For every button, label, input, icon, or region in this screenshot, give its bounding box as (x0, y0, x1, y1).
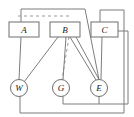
edge-a-w (19, 37, 21, 80)
circle-node-w[interactable]: W (11, 80, 28, 97)
diagram-canvas: A B C W G E (0, 0, 134, 117)
edge-b-w (24, 37, 58, 82)
box-node-b[interactable]: B (50, 22, 80, 37)
circle-node-e[interactable]: E (91, 80, 108, 97)
edge-b-g (63, 37, 66, 80)
box-node-a-label: A (20, 25, 27, 35)
edge-b-e-second (76, 37, 99, 80)
wire-a-top-to-e (21, 9, 99, 80)
circle-node-g[interactable]: G (53, 80, 70, 97)
edge-c-e (101, 37, 102, 80)
circle-node-e-label: E (95, 83, 102, 93)
circle-node-g-label: G (58, 83, 65, 93)
box-node-c[interactable]: C (91, 22, 118, 37)
box-node-c-label: C (101, 25, 108, 35)
diagram-svg: A B C W G E (0, 0, 134, 117)
box-node-a[interactable]: A (9, 22, 39, 37)
solid-edge-group (19, 37, 102, 82)
box-node-b-label: B (62, 25, 68, 35)
